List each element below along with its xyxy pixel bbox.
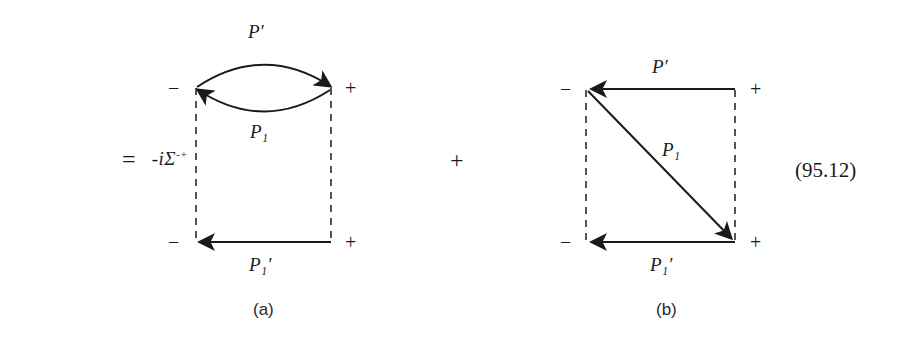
- diagram-a-vertex-sign-bottom-right: +: [345, 232, 356, 252]
- diagram-a-vertex-sign-top-left: −: [168, 78, 179, 98]
- diagram-a-upper-arc: [197, 65, 330, 87]
- diagram-b-momentum-label-bottom: P₁′: [650, 255, 672, 274]
- diagram-b-diagonal-line: [588, 91, 731, 238]
- diagram-a-vertex-sign-top-right: +: [345, 78, 356, 98]
- diagram-b-vertex-sign-top-right: +: [750, 79, 761, 99]
- diagram-a-caption: (a): [253, 300, 274, 320]
- diagram-a-lower-arc: [198, 90, 330, 112]
- diagram-a-vertex-sign-bottom-left: −: [168, 232, 179, 252]
- diagram-b-vertex-sign-bottom-left: −: [560, 232, 571, 252]
- diagram-b-caption: (b): [656, 300, 677, 320]
- diagram-a-graphics: [0, 0, 910, 342]
- diagram-a-momentum-label-top: P′: [248, 22, 264, 41]
- diagram-a-momentum-label-middle: P₁: [250, 122, 268, 141]
- diagram-b-vertex-sign-bottom-right: +: [750, 232, 761, 252]
- diagram-a-momentum-label-bottom: P₁′: [249, 255, 271, 274]
- diagram-b-vertex-sign-top-left: −: [560, 79, 571, 99]
- feynman-diagram-figure: -iΣ-+ = + (95.12): [0, 0, 910, 342]
- diagram-b-momentum-label-top: P′: [652, 57, 668, 76]
- diagram-b-momentum-label-middle: P₁: [662, 140, 680, 159]
